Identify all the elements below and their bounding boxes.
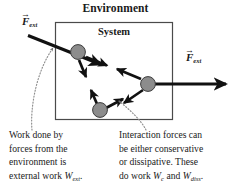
interaction-arrow-bottom-to-right: [106, 99, 123, 108]
system-label: System: [55, 26, 173, 37]
caption-right-work-symbol-2: W: [183, 170, 191, 181]
external-force-arrow-left: [28, 36, 101, 65]
interaction-arrow-right-to-bottom: [124, 90, 143, 103]
caption-left-line-1: Work done by: [9, 128, 113, 142]
caption-right-line-2: be either conservative: [119, 142, 229, 156]
caption-right-work-symbol-1: W: [153, 170, 161, 181]
interaction-arrow-right-to-topleft: [117, 69, 141, 79]
leader-line-left: [32, 48, 53, 130]
vector-arrow-icon-left: →: [21, 10, 30, 19]
particle-top-left: [71, 45, 86, 60]
interaction-arrow-topleft-to-bottom: [79, 60, 86, 77]
force-symbol-left: →F: [22, 16, 29, 27]
caption-right-line-3: or dissipative. These: [119, 155, 229, 169]
force-symbol-right: →F: [186, 52, 193, 63]
caption-right-work-subscript-2: diss: [191, 175, 201, 182]
caption-left-prefix: external work: [9, 170, 64, 181]
vector-arrow-icon-right: →: [185, 46, 194, 55]
external-force-label-left: →Fext: [22, 16, 37, 29]
particle-bottom: [93, 103, 108, 118]
caption-right-line-1: Interaction forces can: [119, 128, 229, 142]
caption-left-line-3: environment is: [9, 155, 113, 169]
caption-right-prefix: do work: [119, 170, 153, 181]
caption-left-line-4: external work Wext.: [9, 169, 113, 186]
caption-left-work-subscript: ext: [72, 175, 80, 182]
caption-left: Work done by forces from the environment…: [9, 128, 113, 185]
leader-line-right: [119, 101, 146, 130]
force-subscript-left: ext: [29, 21, 37, 28]
environment-label: Environment: [0, 2, 231, 14]
interaction-arrow-bottom-to-topleft: [91, 90, 97, 104]
caption-right: Interaction forces can be either conserv…: [119, 128, 229, 185]
particle-right: [141, 77, 156, 92]
caption-right-suffix: .: [201, 170, 203, 181]
caption-left-suffix: .: [80, 170, 82, 181]
caption-right-line-4: do work Wc and Wdiss.: [119, 169, 229, 186]
caption-right-conjunction: and: [164, 170, 183, 181]
caption-left-line-2: forces from the: [9, 142, 113, 156]
force-subscript-right: ext: [193, 57, 201, 64]
external-force-label-right: →Fext: [186, 52, 201, 65]
